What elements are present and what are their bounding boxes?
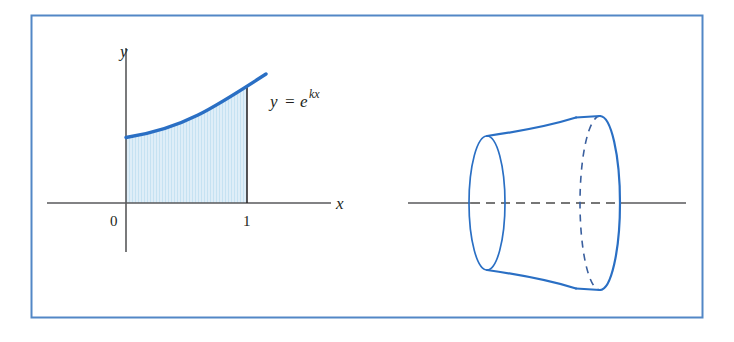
page-background: [0, 0, 734, 342]
figure-root: y x 0 1 y = e kx: [0, 0, 734, 342]
x-tick-label-0: 0: [110, 213, 118, 229]
x-axis-label: x: [335, 194, 344, 213]
curve-equation-equals: =: [284, 92, 295, 111]
bottom-rim-connector: [576, 289, 600, 291]
y-axis-label: y: [118, 42, 128, 61]
curve-equation-y: y: [268, 92, 278, 111]
top-rim-connector: [576, 116, 600, 118]
figure-canvas: y x 0 1 y = e kx: [0, 0, 734, 342]
x-tick-label-1: 1: [243, 213, 251, 229]
curve-equation-base: e: [300, 92, 308, 111]
curve-equation-exponent: kx: [309, 87, 320, 101]
